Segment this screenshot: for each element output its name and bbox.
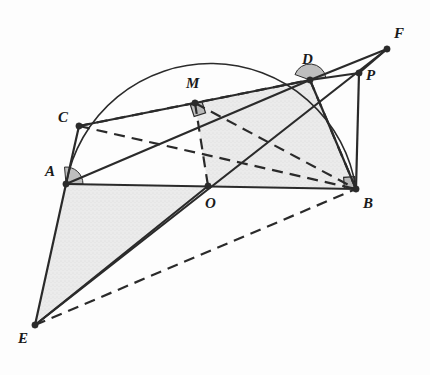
vertex-dot-e <box>32 322 38 328</box>
point-label-a: A <box>45 164 55 179</box>
vertex-dot-a <box>63 181 69 187</box>
vertex-dot-d <box>307 77 313 83</box>
segment-C-M <box>79 103 195 126</box>
vertex-dot-p <box>356 70 362 76</box>
point-label-c: C <box>58 110 68 125</box>
point-label-f: F <box>394 26 404 41</box>
geometry-figure: ABCDEFMOP <box>0 0 430 375</box>
point-label-p: P <box>366 68 375 83</box>
vertex-dot-f <box>384 46 390 52</box>
point-label-m: M <box>186 76 199 91</box>
point-label-b: B <box>363 196 373 211</box>
geometry-canvas <box>0 0 430 375</box>
vertex-dot-c <box>76 123 82 129</box>
vertex-dot-b <box>353 186 359 192</box>
segment-P-B <box>356 73 359 189</box>
point-label-o: O <box>205 196 216 211</box>
point-label-e: E <box>18 331 28 346</box>
point-label-d: D <box>302 52 313 67</box>
vertex-dot-m <box>192 100 198 106</box>
vertex-dot-o <box>205 183 211 189</box>
